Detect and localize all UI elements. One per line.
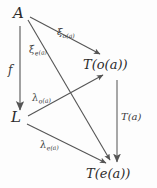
node-A: A [13, 6, 24, 21]
edge-label-xi-e-a: ξe(a) [28, 43, 47, 55]
edge-label-T-a: T(a) [121, 112, 141, 122]
edge-label-lambda-e-a: λe(a) [40, 139, 59, 150]
edge-label-xi-o-a-sub: o(a) [63, 32, 75, 39]
edge-label-f-base: f [8, 63, 12, 77]
commutative-diagram: A L T(o(a)) T(e(a)) ξo(a) ξe(a) f λo(a) … [0, 0, 157, 188]
edge-label-lambda-o-a-sub: o(a) [38, 96, 51, 104]
edge-label-xi-e-a-sub: e(a) [34, 48, 47, 56]
edge-label-lambda-e-a-sub: e(a) [46, 144, 59, 152]
edge-label-xi-o-a: ξo(a) [57, 27, 75, 37]
node-T-o-a: T(o(a)) [83, 58, 128, 71]
arrow-lambda-e-a [27, 124, 106, 163]
diagram-arrow-canvas [0, 0, 157, 188]
edge-label-T-a-base: T(a) [121, 111, 141, 122]
edge-label-lambda-o-a: λo(a) [32, 91, 51, 103]
edge-label-f: f [8, 64, 12, 76]
node-L: L [11, 110, 21, 125]
node-T-e-a: T(e(a)) [86, 167, 130, 180]
